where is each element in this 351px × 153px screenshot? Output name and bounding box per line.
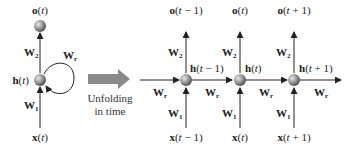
hidden-label: h(t − 1) (190, 62, 224, 75)
input-label: x(t) (232, 131, 248, 144)
hidden-node (34, 74, 46, 86)
output-node (34, 20, 46, 32)
w-rec-label: Wr (259, 86, 273, 100)
w-rec-label: Wr (63, 49, 77, 63)
w-in-label: W1 (276, 107, 291, 121)
input-label: x(t + 1) (277, 131, 310, 144)
hidden-node (180, 74, 192, 86)
unfolded-network: o(t − 1) h(t − 1) x(t − 1) W2 W1 o(t) h(… (140, 4, 341, 144)
hidden-node (288, 74, 300, 86)
output-label: o(t) (232, 4, 248, 17)
output-label: o(t) (32, 4, 48, 17)
output-label: o(t − 1) (169, 4, 202, 17)
w-out-label: W2 (24, 46, 39, 60)
w-rec-label: Wr (153, 86, 167, 100)
w-in-label: W1 (168, 107, 183, 121)
hidden-label: h(t + 1) (299, 62, 333, 75)
hidden-label: h(t) (245, 62, 262, 75)
caption-line1: Unfolding (87, 92, 133, 104)
recurrent-loop-edge (44, 63, 74, 93)
input-label: x(t − 1) (169, 131, 202, 144)
unfolding-transition: Unfolding in time (87, 69, 133, 117)
w-out-label: W2 (168, 46, 183, 60)
rnn-unfolding-diagram: o(t) h(t) x(t) W2 W1 Wr Unfolding in tim… (0, 0, 351, 153)
w-out-label: W2 (222, 46, 237, 60)
output-label: o(t + 1) (277, 4, 310, 17)
w-out-label: W2 (276, 46, 291, 60)
hidden-label: h(t) (12, 74, 29, 87)
folded-network: o(t) h(t) x(t) W2 W1 Wr (12, 4, 77, 144)
w-in-label: W1 (222, 107, 237, 121)
w-in-label: W1 (24, 99, 39, 113)
unfolding-arrow-icon (88, 69, 130, 89)
caption-line2: in time (95, 105, 126, 117)
hidden-node (234, 74, 246, 86)
step-t-minus-1: o(t − 1) h(t − 1) x(t − 1) W2 W1 (168, 4, 224, 144)
step-t-plus-1: o(t + 1) h(t + 1) x(t + 1) W2 W1 (276, 4, 333, 144)
w-rec-label: Wr (314, 86, 328, 100)
w-rec-label: Wr (205, 86, 219, 100)
input-label: x(t) (32, 131, 48, 144)
step-t: o(t) h(t) x(t) W2 W1 (222, 4, 262, 144)
